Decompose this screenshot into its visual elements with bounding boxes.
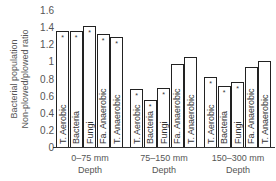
bar: *T. Aerobic [130,89,143,147]
x-group-label: 150–300 mmDepth [200,152,276,176]
x-category-label: 75–150 mm [126,152,202,164]
significance-marker: * [232,85,243,92]
y-tick-label: 0.6 [40,90,54,101]
bar: *Bacteria [218,86,231,147]
bar: Fa. Anaerobic [245,67,258,147]
significance-marker: * [219,89,230,96]
bar-label: T. Aerobic [132,104,142,144]
y-tick-label: 1 [48,56,54,67]
significance-marker: * [205,80,216,87]
y-tick-label: 0.2 [40,124,54,135]
bar: *Fungi [231,82,244,147]
bar-label: Fa. Anaerobic [246,88,256,144]
x-category-label: 0–75 mm [52,152,128,164]
plot-area: *T. Aerobic*Bacteria*Fungi*Fa. Anaerobic… [56,0,274,148]
x-category-label: 150–300 mm [200,152,276,164]
bar-label: T. Aerobic [58,104,68,144]
y-axis-ticks: 00.20.40.60.811.21.41.6 [30,0,54,160]
y-tick-label: 1.4 [40,22,54,33]
bar-label: Bacteria [71,111,81,144]
y-tick-label: 1.6 [40,5,54,16]
bar: T. Anaerobic [184,57,197,147]
bar: *Fa. Anaerobic [97,34,110,147]
bar-label: Fa. Anaerobic [172,88,182,144]
significance-marker: * [111,40,122,47]
y-axis-label-line-1: Bacterial population [9,9,20,149]
y-axis-label: Bacterial population Non-plowed/plowed r… [9,9,31,149]
bar: *Fungi [83,26,96,147]
significance-marker: * [98,37,109,44]
x-axis-label: Depth [126,164,202,176]
significance-marker: * [84,29,95,36]
bar: *Bacteria [70,31,83,147]
significance-marker: * [131,92,142,99]
bar: *Bacteria [144,100,157,147]
bar-label: Fungi [233,121,243,144]
x-group-label: 75–150 mmDepth [126,152,202,176]
bar-label: Fungi [159,121,169,144]
bar-label: T. Anaerobic [186,94,196,144]
significance-marker: * [57,34,68,41]
bar-label: Bacteria [145,111,155,144]
x-axis-label: Depth [52,164,128,176]
bar-label: T. Anaerobic [260,94,270,144]
x-group-label: 0–75 mmDepth [52,152,128,176]
bar-label: T. Anaerobic [112,94,122,144]
x-axis-label: Depth [200,164,276,176]
bar: *T. Aerobic [56,31,69,147]
bar: *T. Aerobic [204,77,217,147]
y-tick-label: 0.8 [40,73,54,84]
bar: *T. Anaerobic [110,37,123,147]
y-tick-label: 0.4 [40,107,54,118]
bar-label: Fungi [85,121,95,144]
bar: *Fungi [157,88,170,147]
bar-label: Bacteria [219,111,229,144]
bar-label: Fa. Anaerobic [98,88,108,144]
significance-marker: * [158,91,169,98]
significance-marker: * [71,34,82,41]
y-tick-label: 1.2 [40,39,54,50]
significance-marker: * [145,103,156,110]
bar: Fa. Anaerobic [171,64,184,147]
bar-label: T. Aerobic [206,104,216,144]
bar: T. Anaerobic [258,61,271,147]
